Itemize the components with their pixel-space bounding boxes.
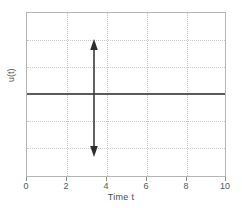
gridline-horizontal-4: [27, 40, 225, 41]
xtick-label-2: 2: [53, 181, 79, 192]
xtick-label-4: 4: [93, 181, 119, 192]
arrow-head-down-icon: [90, 146, 98, 157]
xtick-label-0: 0: [13, 181, 39, 192]
plot-area: [26, 12, 226, 177]
arrow-head-up-icon: [90, 39, 98, 50]
chart-figure: 0 2 4 6 8 10 Time t u(t): [0, 0, 242, 208]
gridline-horizontal-1: [27, 121, 225, 122]
x-axis-label: Time t: [0, 192, 242, 202]
y-axis-label: u(t): [6, 69, 16, 83]
xtick-label-6: 6: [133, 181, 159, 192]
xtick-label-8: 8: [173, 181, 199, 192]
xtick-label-10: 10: [212, 181, 238, 192]
data-series-step-line: [27, 93, 225, 95]
impulse-double-arrow-annotation: [82, 38, 106, 158]
gridline-horizontal-3: [27, 67, 225, 68]
gridline-horizontal-0: [27, 148, 225, 149]
